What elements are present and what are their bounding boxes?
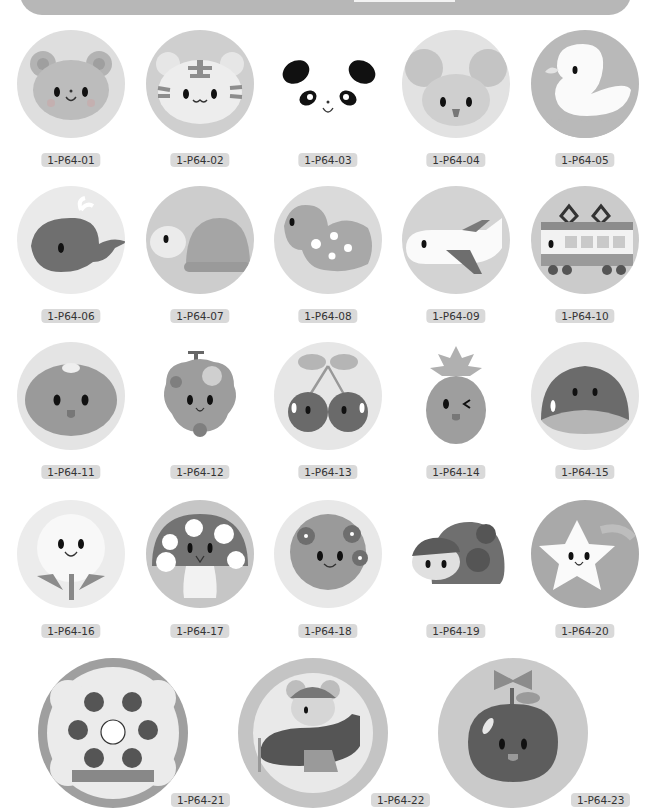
item-1-P64-19[interactable]	[402, 500, 510, 608]
item-label: 1-P64-20	[555, 624, 614, 638]
item-label: 1-P64-02	[170, 153, 229, 167]
item-1-P64-20[interactable]	[531, 500, 639, 608]
dandelion-icon	[17, 500, 125, 608]
item-1-P64-08[interactable]	[274, 186, 382, 294]
item-label: 1-P64-06	[41, 309, 100, 323]
item-1-P64-18[interactable]	[274, 500, 382, 608]
item-1-P64-11[interactable]	[17, 342, 125, 450]
item-label: 1-P64-23	[571, 793, 630, 807]
item-label: 1-P64-19	[426, 624, 485, 638]
item-1-P64-09[interactable]	[402, 186, 510, 294]
item-1-P64-14[interactable]	[402, 342, 510, 450]
item-1-P64-10[interactable]	[531, 186, 639, 294]
item-1-P64-06[interactable]	[17, 186, 125, 294]
item-1-P64-21[interactable]	[38, 658, 188, 808]
item-1-P64-12[interactable]	[146, 342, 254, 450]
whale-icon	[17, 186, 125, 294]
item-label: 1-P64-05	[555, 153, 614, 167]
star-icon	[531, 500, 639, 608]
bear-icon	[17, 30, 125, 138]
cake-icon	[38, 658, 188, 808]
item-label: 1-P64-12	[170, 465, 229, 479]
item-label: 1-P64-11	[41, 465, 100, 479]
item-label: 1-P64-03	[298, 153, 357, 167]
airplane-icon	[402, 186, 510, 294]
item-label: 1-P64-07	[170, 309, 229, 323]
tiger-icon	[146, 30, 254, 138]
item-label: 1-P64-21	[171, 793, 230, 807]
item-1-P64-17[interactable]	[146, 500, 254, 608]
panda-icon	[274, 30, 382, 138]
pineapple-icon	[402, 342, 510, 450]
item-1-P64-05[interactable]	[531, 30, 639, 138]
pilot-icon	[238, 658, 388, 808]
item-label: 1-P64-10	[555, 309, 614, 323]
duck-icon	[531, 30, 639, 138]
item-label: 1-P64-18	[298, 624, 357, 638]
item-1-P64-13[interactable]	[274, 342, 382, 450]
hydrangea-icon	[274, 500, 382, 608]
item-1-P64-03[interactable]	[274, 30, 382, 138]
item-1-P64-15[interactable]	[531, 342, 639, 450]
header-tab	[354, 0, 455, 2]
item-1-P64-02[interactable]	[146, 30, 254, 138]
dinosaur-icon	[274, 186, 382, 294]
item-label: 1-P64-17	[170, 624, 229, 638]
header-banner	[20, 0, 631, 15]
item-label: 1-P64-09	[426, 309, 485, 323]
item-label: 1-P64-01	[41, 153, 100, 167]
item-1-P64-16[interactable]	[17, 500, 125, 608]
item-1-P64-07[interactable]	[146, 186, 254, 294]
apple-icon	[438, 658, 588, 808]
item-1-P64-22[interactable]	[238, 658, 388, 808]
item-label: 1-P64-15	[555, 465, 614, 479]
chestnut-icon	[531, 342, 639, 450]
grapes-icon	[146, 342, 254, 450]
item-label: 1-P64-04	[426, 153, 485, 167]
mouse-icon	[402, 30, 510, 138]
item-1-P64-04[interactable]	[402, 30, 510, 138]
ladybug-icon	[402, 500, 510, 608]
turtle-icon	[146, 186, 254, 294]
item-label: 1-P64-14	[426, 465, 485, 479]
cherries-icon	[274, 342, 382, 450]
item-label: 1-P64-22	[371, 793, 430, 807]
train-icon	[531, 186, 639, 294]
item-1-P64-01[interactable]	[17, 30, 125, 138]
orange-icon	[17, 342, 125, 450]
item-label: 1-P64-08	[298, 309, 357, 323]
item-label: 1-P64-13	[298, 465, 357, 479]
item-label: 1-P64-16	[41, 624, 100, 638]
mushroom-icon	[146, 500, 254, 608]
item-1-P64-23[interactable]	[438, 658, 588, 808]
